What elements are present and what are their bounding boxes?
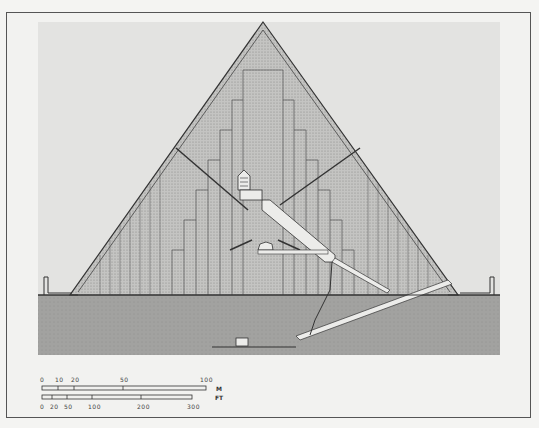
scale-bar-meters (42, 386, 206, 390)
scale-m-tick-10: 10 (55, 376, 64, 383)
pyramid-cross-section-diagram (0, 0, 539, 428)
scale-ft-tick-200: 200 (137, 403, 150, 410)
scale-ft-tick-20: 20 (50, 403, 59, 410)
scale-m-tick-0: 0 (40, 376, 44, 383)
scale-ft-tick-300: 300 (187, 403, 200, 410)
scale-ft-tick-50: 50 (64, 403, 73, 410)
scale-m-unit: M (216, 385, 222, 392)
scale-bar-feet (42, 395, 192, 399)
scale-m-tick-100: 100 (200, 376, 213, 383)
scale-m-tick-50: 50 (120, 376, 129, 383)
scale-ft-tick-0: 0 (40, 403, 44, 410)
scale-ft-unit: FT (215, 394, 223, 401)
scale-m-tick-20: 20 (71, 376, 80, 383)
scale-ft-tick-100: 100 (88, 403, 101, 410)
bedrock (38, 295, 500, 355)
